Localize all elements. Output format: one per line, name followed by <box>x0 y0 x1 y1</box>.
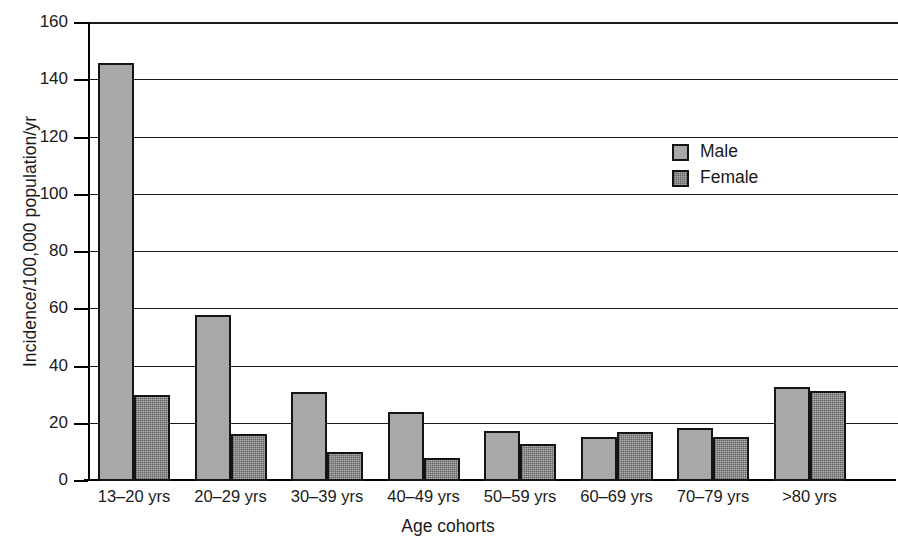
bars-container <box>88 22 896 480</box>
legend-swatch-male-icon <box>672 144 689 161</box>
x-axis-tick-label: 70–79 yrs <box>661 487 765 506</box>
bar-female <box>617 432 653 481</box>
y-axis-tick <box>74 308 88 310</box>
legend-label-female: Female <box>700 169 758 187</box>
x-axis-tick-label: 50–59 yrs <box>468 487 572 506</box>
y-axis-tick-label: 60 <box>8 298 68 318</box>
bar-female <box>713 437 749 481</box>
y-axis-tick-labels: 020406080100120140160 <box>0 0 68 539</box>
bar-male <box>677 428 713 481</box>
bar-male <box>291 392 327 481</box>
bar-female <box>810 391 846 481</box>
y-axis-tick-label: 100 <box>8 184 68 204</box>
bar-male <box>484 431 520 481</box>
y-axis-tick <box>74 22 88 24</box>
bar-female <box>520 444 556 481</box>
bar-male <box>388 412 424 481</box>
x-axis-tick-label: 40–49 yrs <box>372 487 476 506</box>
bar-female <box>424 458 460 481</box>
x-axis-tick-label: 20–29 yrs <box>179 487 283 506</box>
bar-male <box>195 315 231 481</box>
y-axis-tick <box>74 137 88 139</box>
legend-item-male: Male <box>672 139 842 165</box>
x-axis-title: Age cohorts <box>0 516 896 537</box>
y-axis-tick-label: 160 <box>8 12 68 32</box>
y-axis-tick <box>74 251 88 253</box>
bar-female <box>231 434 267 481</box>
y-axis-tick-label: 140 <box>8 69 68 89</box>
x-axis-tick-label: 60–69 yrs <box>565 487 669 506</box>
y-axis-tick <box>74 194 88 196</box>
y-axis-tick-label: 120 <box>8 127 68 147</box>
x-axis-tick-label: 13–20 yrs <box>82 487 186 506</box>
y-axis-tick <box>74 480 88 482</box>
bar-male <box>98 63 134 481</box>
y-axis-tick-label: 80 <box>8 241 68 261</box>
x-axis-tick-label: >80 yrs <box>758 487 862 506</box>
bar-male <box>774 387 810 481</box>
bar-female <box>327 452 363 481</box>
bar-male <box>581 437 617 481</box>
bar-female <box>134 395 170 481</box>
legend-swatch-female-icon <box>672 170 689 187</box>
y-axis-tick <box>74 423 88 425</box>
y-axis-tick-label: 0 <box>8 470 68 490</box>
x-axis-tick-label: 30–39 yrs <box>275 487 379 506</box>
y-axis-tick <box>74 79 88 81</box>
legend-label-male: Male <box>700 143 738 161</box>
y-axis-tick-label: 20 <box>8 413 68 433</box>
y-axis-tick-label: 40 <box>8 356 68 376</box>
legend: Male Female <box>672 139 842 191</box>
x-axis-tick-labels: 13–20 yrs20–29 yrs30–39 yrs40–49 yrs50–5… <box>88 487 896 513</box>
legend-item-female: Female <box>672 165 842 191</box>
y-axis-tick <box>74 366 88 368</box>
